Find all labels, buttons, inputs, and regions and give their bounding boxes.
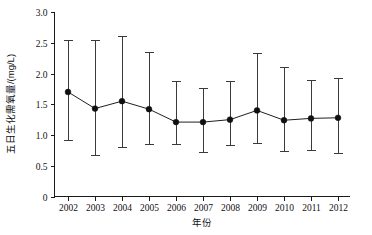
error-bar [172, 81, 181, 145]
x-tick-marks [69, 197, 339, 201]
data-point [65, 89, 71, 95]
data-point [227, 117, 233, 123]
y-tick-label: 2.0 [36, 70, 48, 80]
y-tick-labels: 00.51.01.52.02.53.0 [36, 8, 48, 203]
error-bar [118, 36, 127, 148]
error-bar [91, 40, 100, 155]
x-tick-label: 2010 [275, 203, 294, 213]
x-tick-label: 2007 [194, 203, 213, 213]
error-bars [64, 36, 343, 156]
y-tick-label: 1.0 [36, 131, 48, 141]
y-tick-label: 0 [43, 193, 48, 203]
y-tick-label: 3.0 [36, 8, 48, 18]
x-tick-label: 2004 [113, 203, 132, 213]
data-point [173, 119, 179, 125]
data-point [254, 108, 260, 114]
x-tick-labels: 2002200320042005200620072008200920102011… [59, 203, 348, 213]
y-tick-label: 0.5 [36, 162, 48, 172]
y-tick-label: 2.5 [36, 39, 48, 49]
data-point [335, 115, 341, 121]
x-tick-label: 2002 [59, 203, 78, 213]
chart-figure: 00.51.01.52.02.53.0 20022003200420052006… [0, 0, 372, 235]
error-bar [253, 53, 262, 143]
y-tick-marks [51, 13, 55, 198]
x-tick-label: 2009 [248, 203, 267, 213]
data-point [281, 117, 287, 123]
error-bar [145, 52, 154, 145]
error-bar [226, 81, 235, 145]
x-axis-title: 年份 [192, 217, 212, 228]
x-tick-label: 2012 [329, 203, 348, 213]
data-point [200, 119, 206, 125]
data-point [92, 106, 98, 112]
x-tick-label: 2006 [167, 203, 186, 213]
y-axis-title: 五日生化需氧量/(mg/L) [5, 54, 16, 154]
bod-error-bar-line-chart: 00.51.01.52.02.53.0 20022003200420052006… [0, 0, 372, 235]
y-tick-label: 1.5 [36, 100, 48, 110]
x-tick-label: 2005 [140, 203, 159, 213]
data-point [119, 98, 125, 104]
data-point [308, 115, 314, 121]
x-tick-label: 2008 [221, 203, 240, 213]
data-point [146, 106, 152, 112]
error-bar [280, 67, 289, 151]
x-tick-label: 2011 [302, 203, 321, 213]
x-tick-label: 2003 [86, 203, 105, 213]
